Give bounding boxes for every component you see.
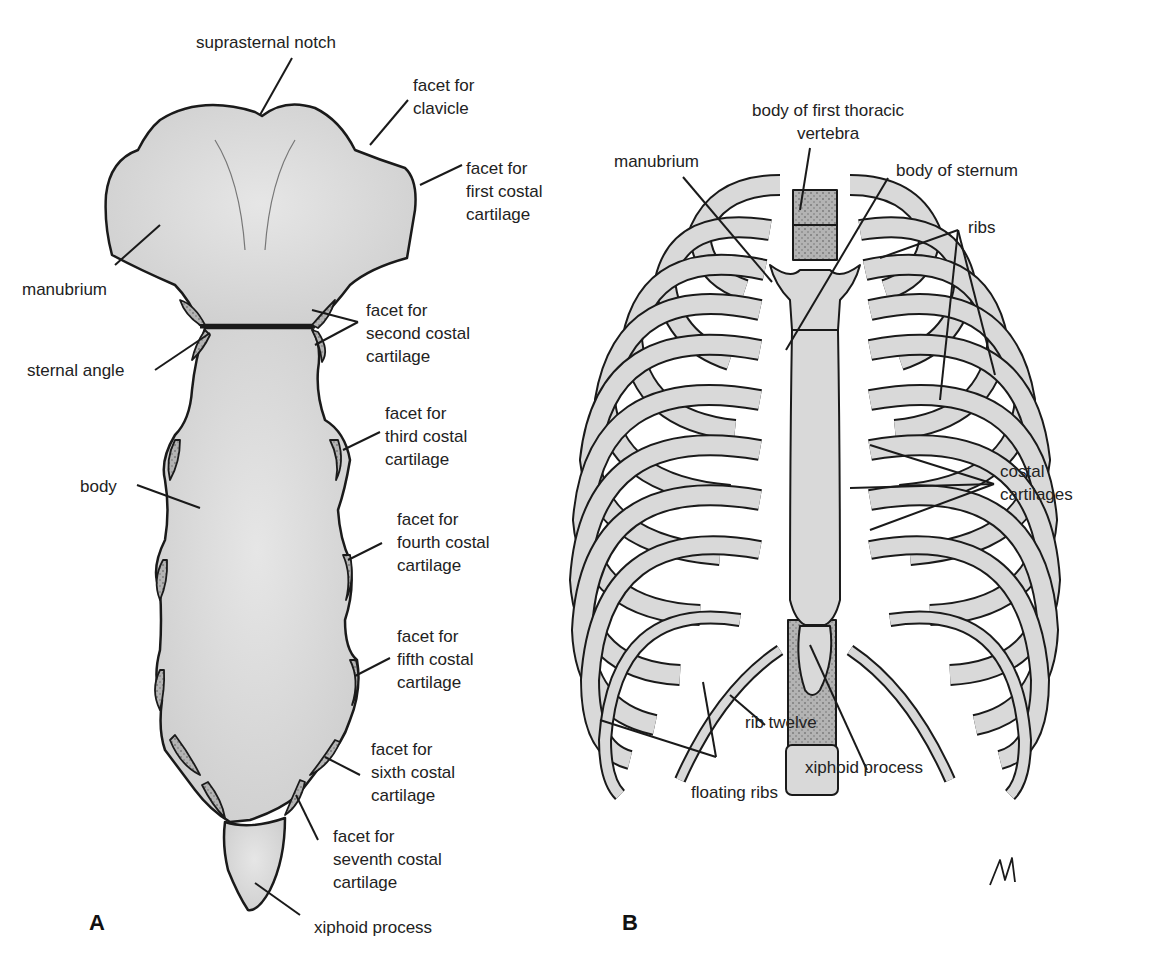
label-manubrium-b: manubrium [614, 150, 699, 173]
label-xiphoid-process-a: xiphoid process [314, 916, 432, 939]
panel-letter-b: B [622, 910, 638, 936]
label-facet-first-costal-cartilage: facet for first costal cartilage [466, 157, 543, 226]
sternum-body-shape [156, 328, 358, 822]
ribs-left [580, 185, 780, 795]
label-facet-sixth-costal-cartilage: facet for sixth costal cartilage [371, 738, 455, 807]
label-facet-third-costal-cartilage: facet for third costal cartilage [385, 402, 467, 471]
illustration-canvas [0, 0, 1155, 953]
label-manubrium-a: manubrium [22, 278, 107, 301]
label-suprasternal-notch: suprasternal notch [196, 31, 336, 54]
manubrium-shape [106, 104, 416, 325]
label-sternal-angle: sternal angle [27, 359, 124, 382]
thoracic-cage-drawing [580, 185, 1050, 885]
label-xiphoid-process-b: xiphoid process [805, 756, 923, 779]
label-floating-ribs: floating ribs [691, 781, 778, 804]
label-facet-fifth-costal-cartilage: facet for fifth costal cartilage [397, 625, 474, 694]
label-facet-fourth-costal-cartilage: facet for fourth costal cartilage [397, 508, 490, 577]
label-ribs: ribs [968, 216, 995, 239]
label-body-first-thoracic-vertebra: body of first thoracic vertebra [752, 99, 904, 145]
xiphoid-shape [224, 818, 285, 910]
panel-letter-a: A [89, 910, 105, 936]
sternum-b-shape [770, 265, 860, 625]
label-facet-second-costal-cartilage: facet for second costal cartilage [366, 299, 470, 368]
label-facet-clavicle: facet for clavicle [413, 74, 474, 120]
label-facet-seventh-costal-cartilage: facet for seventh costal cartilage [333, 825, 442, 894]
label-body: body [80, 475, 117, 498]
sternum-drawing [106, 104, 416, 910]
label-body-of-sternum: body of sternum [896, 159, 1018, 182]
label-rib-twelve: rib twelve [745, 711, 817, 734]
label-costal-cartilages: costal cartilages [1000, 460, 1073, 506]
